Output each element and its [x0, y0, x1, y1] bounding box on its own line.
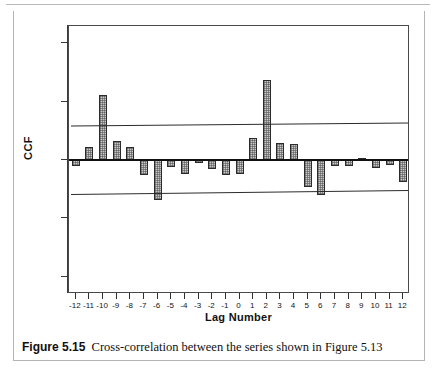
bar	[140, 160, 148, 175]
x-axis-tick	[334, 293, 335, 299]
figure-page: CCF 1.00.50.0-0.5-1.0 -12-11-10-9-8-7-6-…	[0, 0, 435, 376]
x-axis-tick	[88, 293, 89, 299]
x-axis-tick-label: -10	[96, 301, 108, 310]
x-axis-tick	[252, 293, 253, 299]
upper-confidence-bound-line	[71, 122, 408, 126]
x-axis-tick-label: 7	[332, 301, 336, 310]
bar	[372, 160, 380, 168]
x-axis-tick-label: 9	[359, 301, 363, 310]
x-axis-tick-label: 10	[370, 301, 379, 310]
x-axis-tick	[116, 293, 117, 299]
x-axis-tick	[389, 293, 390, 299]
x-axis-tick-label: -6	[153, 301, 160, 310]
x-axis-tick	[402, 293, 403, 299]
y-axis-tick	[61, 159, 68, 160]
x-axis-tick-label: -1	[221, 301, 228, 310]
x-axis-tick-label: -4	[180, 301, 187, 310]
x-axis-tick-label: 6	[318, 301, 322, 310]
x-axis-tick-label: -8	[126, 301, 133, 310]
x-axis-tick-label: 4	[291, 301, 295, 310]
x-axis-tick	[307, 293, 308, 299]
y-axis-tick	[61, 276, 68, 277]
bar	[304, 160, 312, 187]
x-axis-tick	[143, 293, 144, 299]
y-axis-tick	[61, 217, 68, 218]
x-axis-tick	[279, 293, 280, 299]
x-axis-tick-label: -9	[112, 301, 119, 310]
bar	[276, 143, 284, 160]
x-axis-tick	[211, 293, 212, 299]
x-axis-tick	[320, 293, 321, 299]
y-axis-tick	[61, 42, 68, 43]
x-axis-tick-label: -2	[208, 301, 215, 310]
bar	[317, 160, 325, 195]
y-axis-tick	[61, 101, 68, 102]
x-axis-tick	[225, 293, 226, 299]
x-axis-tick-label: -12	[69, 301, 81, 310]
lower-confidence-bound-line	[71, 190, 408, 195]
x-axis-title: Lag Number	[68, 311, 409, 323]
figure-caption-label: Figure 5.15	[22, 340, 85, 354]
page-rule-left	[13, 11, 14, 361]
x-axis-tick-label: -3	[194, 301, 201, 310]
figure-caption-text: Cross-correlation between the series sho…	[92, 340, 383, 354]
x-axis-tick-label: 3	[277, 301, 281, 310]
page-rule-top	[6, 4, 430, 5]
x-axis-tick-label: 8	[345, 301, 349, 310]
bar	[249, 138, 257, 160]
x-axis-tick	[157, 293, 158, 299]
bar	[181, 160, 189, 174]
x-axis-tick	[75, 293, 76, 299]
x-axis-tick	[348, 293, 349, 299]
figure-caption: Figure 5.15 Cross-correlation between th…	[22, 340, 422, 355]
x-axis-tick	[102, 293, 103, 299]
x-axis-tick	[129, 293, 130, 299]
y-axis-title: CCF	[22, 118, 34, 178]
x-axis-tick	[170, 293, 171, 299]
x-axis-tick-label: 5	[304, 301, 308, 310]
x-axis-tick-label: 1	[250, 301, 254, 310]
x-axis-tick-label: 2	[264, 301, 268, 310]
page-rule-right	[424, 11, 425, 361]
x-axis-tick	[184, 293, 185, 299]
x-axis-tick-label: -7	[139, 301, 146, 310]
x-axis-tick	[361, 293, 362, 299]
bar	[208, 160, 216, 169]
page-rule-bottom	[13, 360, 425, 361]
x-axis-tick	[293, 293, 294, 299]
x-axis-tick-label: -5	[167, 301, 174, 310]
x-axis-tick-label: 0	[236, 301, 240, 310]
bar	[263, 80, 271, 160]
x-axis-tick	[266, 293, 267, 299]
zero-reference-line	[69, 159, 408, 161]
x-axis-tick	[375, 293, 376, 299]
bar	[99, 95, 107, 160]
bar	[167, 160, 175, 167]
plot-area	[69, 26, 408, 292]
bar	[113, 141, 121, 160]
x-axis-tick	[198, 293, 199, 299]
x-axis-tick-label: 11	[384, 301, 392, 310]
bar	[290, 144, 298, 160]
bar	[222, 160, 230, 175]
x-axis-tick	[239, 293, 240, 299]
chart-plot-frame	[68, 25, 409, 293]
bar	[236, 160, 244, 174]
x-axis-tick-label: 12	[398, 301, 407, 310]
bar	[399, 160, 407, 182]
x-axis-tick-label: -11	[83, 301, 94, 310]
